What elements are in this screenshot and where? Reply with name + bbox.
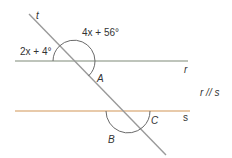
label-angle-A: A	[96, 73, 104, 84]
angle-arc-C	[143, 111, 150, 127]
label-line-r: r	[184, 64, 188, 75]
label-line-s: s	[183, 112, 188, 123]
label-angle-2x-plus-4: 2x + 4°	[20, 46, 52, 57]
parallel-lines-diagram: t 2x + 4° 4x + 56° A r r // s s C B	[0, 0, 232, 158]
angle-arc-2x-plus-4	[53, 46, 60, 61]
label-t: t	[36, 10, 40, 21]
label-angle-B: B	[108, 134, 115, 145]
label-angle-C: C	[151, 115, 159, 126]
angle-arc-A	[89, 61, 96, 76]
angle-arc-B	[106, 111, 143, 133]
label-angle-4x-plus-56: 4x + 56°	[82, 27, 119, 38]
label-relation-r-parallel-s: r // s	[200, 87, 219, 98]
